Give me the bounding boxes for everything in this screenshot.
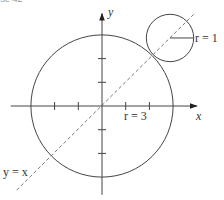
line-y-equals-x [17, 12, 196, 190]
small-radius-label: r = 1 [195, 32, 218, 44]
exercise-caption: ercise 42 [0, 0, 23, 4]
diagram: ercise 42 y x r = 1 r = 3 y = x [0, 0, 224, 200]
diagram-canvas [0, 0, 224, 200]
axes [11, 14, 197, 195]
line-label: y = x [3, 166, 28, 178]
x-axis-label: x [196, 110, 201, 122]
big-radius-label: r = 3 [124, 110, 147, 122]
y-axis-label: y [108, 6, 113, 18]
